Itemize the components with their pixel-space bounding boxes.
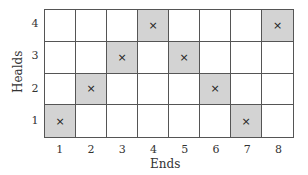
- cross-mark-icon: ×: [86, 82, 95, 95]
- grid-cell: ×: [76, 74, 107, 106]
- x-tick-label: 2: [81, 143, 101, 156]
- cross-mark-icon: ×: [210, 82, 219, 95]
- grid-cell: ×: [107, 42, 138, 74]
- x-tick-label: 5: [175, 143, 195, 156]
- draft-grid: ××××××××: [44, 9, 294, 138]
- grid-cell: ×: [138, 10, 169, 42]
- cross-mark-icon: ×: [179, 51, 188, 64]
- grid-cell: [200, 105, 231, 137]
- grid-cell: [45, 42, 76, 74]
- x-tick-label: 8: [268, 143, 288, 156]
- grid-cell: [200, 10, 231, 42]
- y-tick-label: 4: [30, 17, 40, 30]
- grid-cell: ×: [262, 10, 293, 42]
- grid-cell: [76, 10, 107, 42]
- grid-cell: [231, 74, 262, 106]
- grid-cell: [45, 74, 76, 106]
- grid-cell: [200, 42, 231, 74]
- grid-cell: [138, 74, 169, 106]
- grid-cell: [107, 105, 138, 137]
- cross-mark-icon: ×: [273, 19, 282, 32]
- grid-cell: [45, 10, 76, 42]
- cross-mark-icon: ×: [148, 19, 157, 32]
- x-axis-label: Ends: [150, 157, 180, 171]
- grid-cell: [262, 105, 293, 137]
- x-tick-label: 1: [50, 143, 70, 156]
- grid-cell: [138, 105, 169, 137]
- grid-cell: [107, 10, 138, 42]
- grid-cell: [76, 105, 107, 137]
- grid-cell: [262, 42, 293, 74]
- y-axis-label: Healds: [11, 53, 25, 93]
- grid-cell: [169, 105, 200, 137]
- grid-cell: [262, 74, 293, 106]
- grid-cell: ×: [231, 105, 262, 137]
- x-tick-label: 6: [206, 143, 226, 156]
- y-tick-label: 1: [30, 114, 40, 127]
- grid-cell: [169, 10, 200, 42]
- y-tick-label: 3: [30, 49, 40, 62]
- x-tick-label: 3: [112, 143, 132, 156]
- grid-cell: [231, 42, 262, 74]
- y-tick-label: 2: [30, 82, 40, 95]
- x-tick-label: 4: [143, 143, 163, 156]
- grid-cell: [169, 74, 200, 106]
- x-tick-label: 7: [237, 143, 257, 156]
- cross-mark-icon: ×: [55, 115, 64, 128]
- grid-cell: [76, 42, 107, 74]
- grid-cell: ×: [45, 105, 76, 137]
- grid-cell: [107, 74, 138, 106]
- cross-mark-icon: ×: [241, 115, 250, 128]
- grid-cell: ×: [169, 42, 200, 74]
- grid-cell: [231, 10, 262, 42]
- grid-cell: [138, 42, 169, 74]
- cross-mark-icon: ×: [117, 51, 126, 64]
- grid-cell: ×: [200, 74, 231, 106]
